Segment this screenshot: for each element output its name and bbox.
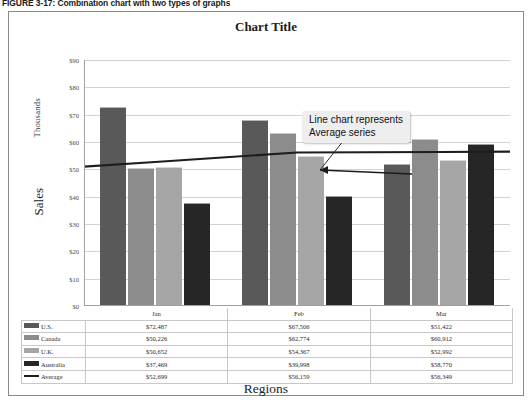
bar-canada-feb [270, 133, 296, 305]
chart-frame: Chart Title Thousands Sales Regions $0$1… [8, 11, 524, 396]
table-cell-canada-feb: $62,774 [228, 333, 370, 346]
y-axis-line [84, 60, 85, 306]
y-tick-label: $70 [69, 111, 79, 118]
bar-canada-jan [128, 168, 154, 305]
bar-group-jan [84, 59, 226, 305]
y-axis-unit-label: Thousands [32, 98, 46, 138]
bar-group-mar [368, 59, 510, 305]
y-tick-label: $50 [69, 166, 79, 173]
bar-uk-mar [440, 160, 466, 305]
callout-annotation: Line chart represents Average series [302, 111, 410, 143]
table-cell-average-jan: $52,699 [86, 370, 228, 383]
table-row-label-average: Average [22, 370, 86, 383]
callout-line-1: Line chart represents [309, 114, 403, 127]
table-col-header-jan: Jan [86, 308, 228, 320]
table-col-header-mar: Mar [370, 308, 512, 320]
y-tick-label: $40 [69, 193, 79, 200]
bar-us-mar [384, 164, 410, 305]
x-axis-line [84, 305, 510, 306]
table-row: Canada$50,226$62,774$60,912 [22, 333, 513, 346]
table-cell-canada-mar: $60,912 [370, 333, 512, 346]
table-row: U.S.$72,487$67,506$51,422 [22, 320, 513, 333]
legend-swatch-icon [24, 323, 39, 328]
chart-title: Chart Title [9, 19, 523, 35]
bar-australia-feb [326, 196, 352, 305]
plot-area: $0$10$20$30$40$50$60$70$80$90 [84, 60, 510, 306]
table-cell-uk-feb: $54,367 [228, 345, 370, 358]
bar-us-jan [100, 107, 126, 305]
y-axis-title: Sales [31, 188, 47, 215]
table-col-header-feb: Feb [228, 308, 370, 320]
legend-swatch-icon [24, 348, 39, 353]
table-cell-australia-feb: $39,998 [228, 358, 370, 371]
table-row: U.K.$50,652$54,367$52,992 [22, 345, 513, 358]
table-row-label-australia: Australia [22, 358, 86, 371]
table-cell-us-jan: $72,487 [86, 320, 228, 333]
bar-australia-mar [468, 144, 494, 305]
table-cell-canada-jan: $50,226 [86, 333, 228, 346]
table-cell-us-feb: $67,506 [228, 320, 370, 333]
y-tick-label: $90 [69, 57, 79, 64]
table-corner-cell [22, 308, 86, 320]
table-cell-average-mar: $56,349 [370, 370, 512, 383]
bar-canada-mar [412, 139, 438, 305]
bar-uk-jan [156, 167, 182, 305]
y-tick-label: $10 [69, 275, 79, 282]
y-tick-label: $30 [69, 221, 79, 228]
legend-swatch-icon [24, 335, 39, 340]
table-body: U.S.$72,487$67,506$51,422Canada$50,226$6… [22, 320, 513, 383]
bar-uk-feb [298, 156, 324, 305]
table-row-label-uk: U.K. [22, 345, 86, 358]
chart-data-table: JanFebMar U.S.$72,487$67,506$51,422Canad… [21, 308, 513, 384]
legend-swatch-icon [24, 361, 39, 366]
bar-group-feb [226, 59, 368, 305]
table-header-row: JanFebMar [22, 308, 513, 320]
table-cell-australia-mar: $58,770 [370, 358, 512, 371]
table-row: Average$52,699$56,159$56,349 [22, 370, 513, 383]
table-cell-uk-mar: $52,992 [370, 345, 512, 358]
bar-australia-jan [184, 203, 210, 305]
y-tick-label: $80 [69, 84, 79, 91]
table-cell-average-feb: $56,159 [228, 370, 370, 383]
table-cell-australia-jan: $37,469 [86, 358, 228, 371]
table-row-label-canada: Canada [22, 333, 86, 346]
y-tick-label: $60 [69, 139, 79, 146]
bar-us-feb [242, 120, 268, 305]
table-row-label-us: U.S. [22, 320, 86, 333]
figure-caption: FIGURE 3-17: Combination chart with two … [2, 0, 230, 8]
table-cell-uk-jan: $50,652 [86, 345, 228, 358]
legend-swatch-icon [24, 375, 39, 377]
callout-line-2: Average series [309, 127, 403, 140]
table-row: Australia$37,469$39,998$58,770 [22, 358, 513, 371]
table-header: JanFebMar [22, 308, 513, 320]
table-cell-us-mar: $51,422 [370, 320, 512, 333]
y-tick-label: $20 [69, 248, 79, 255]
